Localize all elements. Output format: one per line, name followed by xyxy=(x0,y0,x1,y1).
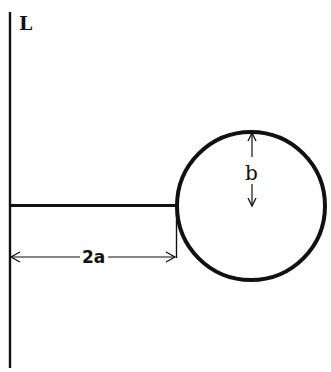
label-2a: 2a xyxy=(82,247,105,267)
circle xyxy=(177,132,325,280)
dimension-b: b xyxy=(245,133,258,206)
label-L: L xyxy=(19,12,32,34)
diagram-canvas: L 2a b xyxy=(0,0,331,372)
label-b: b xyxy=(245,161,258,185)
dimension-2a: 2a xyxy=(11,247,175,267)
